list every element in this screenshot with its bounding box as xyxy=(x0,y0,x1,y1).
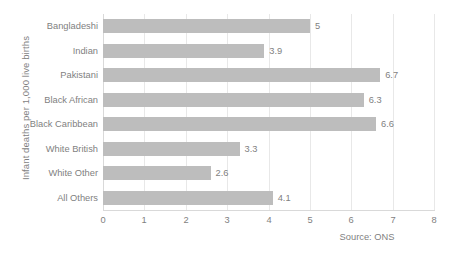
gridline xyxy=(434,14,435,210)
gridline xyxy=(351,14,352,210)
bar-value-label: 2.6 xyxy=(216,166,229,180)
y-axis-label: Black Caribbean xyxy=(30,117,98,131)
bar xyxy=(103,44,264,58)
x-axis-tick-label: 4 xyxy=(257,212,281,228)
bar xyxy=(103,191,273,205)
source-note: Source: ONS xyxy=(300,232,434,242)
x-axis-tick-label: 6 xyxy=(339,212,363,228)
y-axis-label: All Others xyxy=(57,191,98,205)
x-axis-tick-label: 5 xyxy=(298,212,322,228)
gridline xyxy=(310,14,311,210)
bar-value-label: 4.1 xyxy=(278,191,291,205)
y-axis-label: White British xyxy=(46,142,98,156)
x-axis-tick-labels: 012345678 xyxy=(103,212,434,228)
y-axis-label: White Other xyxy=(48,166,98,180)
y-axis-label: Pakistani xyxy=(60,68,98,82)
x-axis-tick-label: 7 xyxy=(381,212,405,228)
y-axis-category-labels: BangladeshiIndianPakistaniBlack AfricanB… xyxy=(30,14,98,210)
bar xyxy=(103,166,211,180)
x-axis-tick-label: 3 xyxy=(215,212,239,228)
x-axis-tick-label: 1 xyxy=(132,212,156,228)
bar-value-label: 3.9 xyxy=(269,44,282,58)
plot-area: 53.96.76.36.63.32.64.1 xyxy=(103,14,434,210)
bar-value-label: 6.6 xyxy=(381,117,394,131)
bar-value-label: 6.3 xyxy=(369,93,382,107)
y-axis-label: Black African xyxy=(44,93,98,107)
bar xyxy=(103,117,376,131)
bar-chart: Infant deaths per 1,000 live births Bang… xyxy=(0,0,462,258)
x-axis-tick-label: 0 xyxy=(91,212,115,228)
bar-value-label: 6.7 xyxy=(385,68,398,82)
bar xyxy=(103,19,310,33)
x-axis-tick-label: 2 xyxy=(174,212,198,228)
bar-value-label: 3.3 xyxy=(245,142,258,156)
bar xyxy=(103,93,364,107)
y-axis-label: Bangladeshi xyxy=(47,19,98,33)
y-axis-label: Indian xyxy=(73,44,98,58)
x-axis-line xyxy=(103,210,435,211)
bar-value-label: 5 xyxy=(315,19,320,33)
gridline xyxy=(393,14,394,210)
x-axis-tick-label: 8 xyxy=(422,212,446,228)
bar xyxy=(103,68,380,82)
bar xyxy=(103,142,240,156)
